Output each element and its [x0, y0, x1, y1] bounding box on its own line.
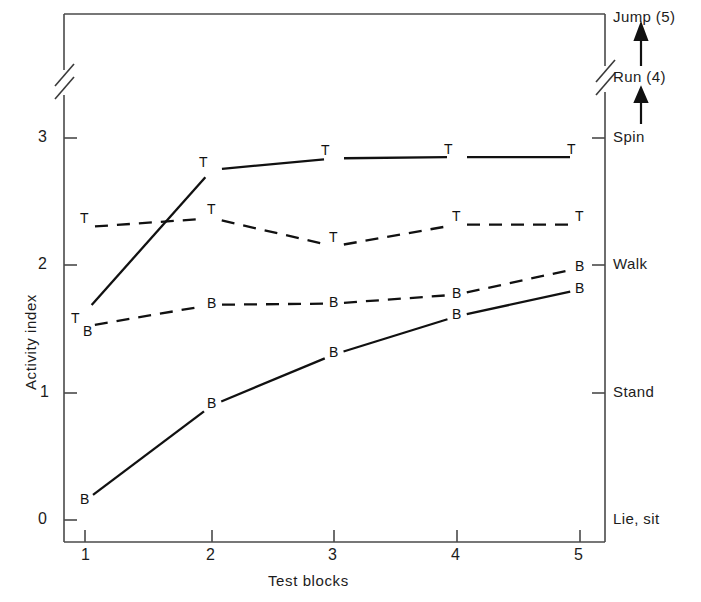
x-axis-title: Test blocks: [268, 572, 349, 589]
data-point-marker: T: [444, 142, 453, 156]
right-label-spin: Spin: [613, 128, 645, 145]
x-tick-label-4: 4: [451, 546, 460, 564]
y-tick-label-2: 2: [38, 255, 47, 273]
data-point-marker: T: [329, 230, 338, 244]
data-point-marker: T: [321, 143, 330, 157]
series-segment: [221, 358, 325, 401]
series-segment: [92, 177, 206, 305]
arrow-spin-to-run-head: [635, 24, 647, 40]
chart-figure: Activity index Test blocks 0 1 2 3 1 2 3…: [0, 0, 701, 602]
data-point-marker: B: [575, 259, 584, 273]
data-point-marker: T: [575, 209, 584, 223]
right-label-run: Run (4): [613, 68, 666, 85]
data-point-marker: T: [452, 209, 461, 223]
x-axis-ticks: [85, 530, 580, 542]
data-point-marker: T: [567, 142, 576, 156]
right-label-stand: Stand: [613, 383, 654, 400]
data-point-marker: B: [575, 281, 584, 295]
right-label-walk: Walk: [613, 255, 647, 272]
series-segment: [344, 319, 448, 351]
data-point-marker: T: [71, 311, 80, 325]
x-tick-label-5: 5: [574, 546, 583, 564]
series-segment: [467, 270, 570, 292]
x-tick-label-2: 2: [206, 546, 215, 564]
data-point-marker: B: [452, 307, 461, 321]
right-label-lie-sit: Lie, sit: [613, 510, 660, 527]
y-axis-ticks: [64, 138, 77, 520]
data-point-marker: T: [207, 202, 216, 216]
y-tick-label-0: 0: [38, 510, 47, 528]
series-segment: [95, 306, 202, 324]
series-segment: [344, 226, 447, 244]
data-point-marker: B: [83, 324, 92, 338]
series-segment: [344, 157, 447, 158]
data-point-marker: B: [329, 295, 338, 309]
series-segment: [222, 159, 324, 169]
data-point-marker: B: [452, 286, 461, 300]
data-point-marker: B: [80, 492, 89, 506]
right-label-jump: Jump (5): [613, 8, 675, 25]
plot-frame: [64, 14, 605, 542]
data-point-marker: T: [199, 155, 208, 169]
data-point-marker: B: [207, 296, 216, 310]
data-point-marker: B: [207, 396, 216, 410]
data-point-marker: T: [80, 211, 89, 225]
x-tick-label-1: 1: [81, 546, 90, 564]
series-segment: [222, 220, 325, 244]
plot-canvas: [0, 0, 701, 602]
x-tick-label-3: 3: [328, 546, 337, 564]
y-tick-label-1: 1: [40, 383, 49, 401]
right-axis-ticks: [592, 138, 605, 393]
series-segment: [222, 304, 324, 305]
y-axis-title: Activity index: [22, 294, 39, 390]
y-tick-label-3: 3: [38, 128, 47, 146]
series-segment: [344, 295, 447, 302]
series-segment: [95, 219, 202, 227]
series-segment: [93, 411, 204, 494]
data-series-layer: [92, 157, 571, 495]
data-point-marker: B: [329, 345, 338, 359]
series-segment: [467, 292, 570, 314]
arrow-run-to-jump-head: [635, 88, 647, 102]
